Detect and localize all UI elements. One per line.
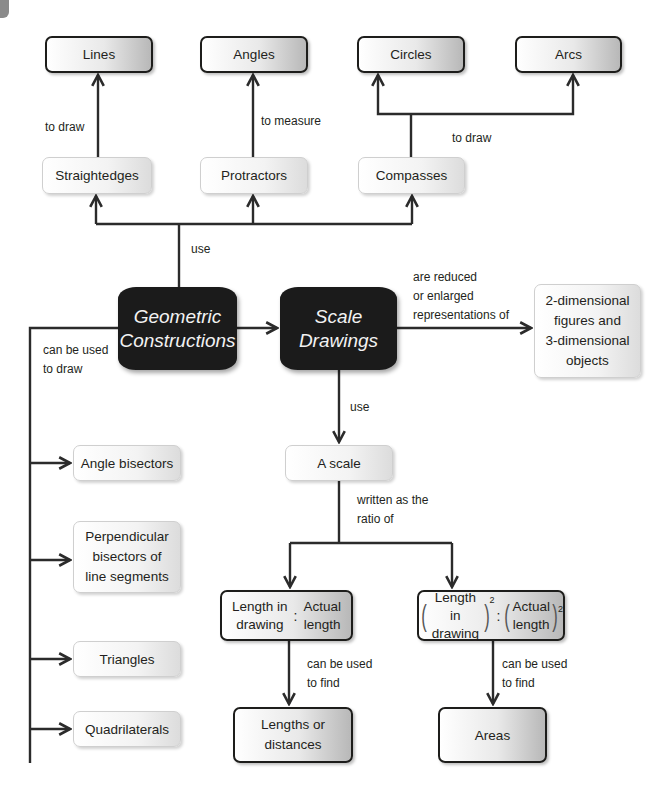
angle-bisectors-label: Angle bisectors: [81, 454, 173, 473]
ratio-squared-left-line2: drawing: [429, 625, 482, 643]
find-lengths-line1: can be used: [307, 655, 372, 674]
node-straightedges-label: Straightedges: [55, 166, 138, 185]
edge-label-use-scale: use: [350, 398, 369, 417]
geometric-line1: Geometric: [119, 305, 235, 329]
right-paren-close: ): [552, 601, 558, 631]
written-line2: ratio of: [357, 510, 428, 529]
node-lengths-distances: Lengths or distances: [233, 707, 353, 763]
node-protractors-label: Protractors: [221, 166, 287, 185]
ratio-squared-right-line2: length: [512, 616, 550, 634]
figures-line3: 3-dimensional: [545, 331, 629, 351]
find-areas-line2: to find: [502, 674, 567, 693]
node-angle-bisectors: Angle bisectors: [73, 445, 181, 481]
triangles-label: Triangles: [99, 650, 154, 669]
a-scale-label: A scale: [317, 454, 361, 473]
ratio-squared-left-group: ( Length in drawing ) 2: [419, 589, 495, 643]
node-circles: Circles: [357, 36, 465, 73]
left-paren-close: ): [484, 601, 490, 631]
edge-label-to-draw-circles: to draw: [452, 129, 491, 148]
edge-label-to-measure: to measure: [261, 112, 321, 131]
figures-line2: figures and: [545, 311, 629, 331]
ratio-squared-colon: :: [497, 607, 501, 625]
ratio-linear-left-line1: Length in: [232, 598, 288, 616]
ratio-squared-right-group: ( Actual length ) 2: [502, 598, 563, 634]
written-line1: written as the: [357, 491, 428, 510]
node-lines: Lines: [45, 36, 153, 73]
ratio-linear-left-line2: drawing: [232, 616, 288, 634]
can-draw-line1: can be used: [43, 341, 108, 360]
find-lengths-line2: to find: [307, 674, 372, 693]
ratio-linear-left: Length in drawing: [232, 598, 288, 634]
edge-label-find-lengths: can be used to find: [307, 655, 372, 693]
node-compasses-label: Compasses: [376, 166, 447, 185]
ratio-squared-left-line1: Length in: [429, 589, 482, 625]
node-quadrilaterals: Quadrilaterals: [73, 711, 181, 747]
can-draw-line2: to draw: [43, 360, 108, 379]
figures-line4: objects: [545, 351, 629, 371]
left-paren-open: (: [421, 601, 427, 631]
right-paren-open: (: [505, 601, 511, 631]
ratio-linear-right-line1: Actual: [303, 598, 341, 616]
scale-line2: Drawings: [299, 329, 378, 353]
edge-label-represent: are reduced or enlarged representations …: [413, 268, 509, 325]
node-geometric-constructions: Geometric Constructions: [118, 287, 237, 370]
represent-line3: representations of: [413, 306, 509, 325]
perp-line1: Perpendicular: [85, 527, 168, 547]
represent-line2: or enlarged: [413, 287, 509, 306]
ratio-linear-right-line2: length: [303, 616, 341, 634]
areas-label: Areas: [475, 726, 510, 745]
quadrilaterals-label: Quadrilaterals: [85, 720, 169, 739]
lengths-line2: distances: [261, 735, 325, 755]
find-areas-line1: can be used: [502, 655, 567, 674]
perp-line2: bisectors of: [85, 547, 168, 567]
represent-line1: are reduced: [413, 268, 509, 287]
lengths-line1: Lengths or: [261, 715, 325, 735]
perp-line3: line segments: [85, 567, 168, 587]
node-figures-objects: 2-dimensional figures and 3-dimensional …: [534, 284, 641, 378]
node-perpendicular-bisectors: Perpendicular bisectors of line segments: [73, 521, 181, 593]
node-a-scale: A scale: [285, 445, 393, 481]
right-exponent: 2: [558, 600, 563, 618]
node-compasses: Compasses: [358, 157, 465, 194]
figures-line1: 2-dimensional: [545, 291, 629, 311]
ratio-linear-right: Actual length: [303, 598, 341, 634]
scale-line1: Scale: [299, 305, 378, 329]
ratio-linear-colon: :: [294, 607, 298, 625]
node-ratio-squared: ( Length in drawing ) 2 : ( Actual lengt…: [417, 590, 565, 641]
node-straightedges: Straightedges: [42, 157, 152, 194]
node-ratio-linear: Length in drawing : Actual length: [220, 590, 353, 641]
left-exponent: 2: [490, 591, 495, 609]
edge-label-use-tools: use: [191, 240, 210, 259]
node-circles-label: Circles: [390, 45, 431, 64]
edge-label-can-draw: can be used to draw: [43, 341, 108, 379]
node-triangles: Triangles: [73, 641, 181, 677]
edge-label-find-areas: can be used to find: [502, 655, 567, 693]
node-protractors: Protractors: [200, 157, 308, 194]
node-angles: Angles: [200, 36, 308, 73]
node-lines-label: Lines: [83, 45, 115, 64]
edge-label-written-as: written as the ratio of: [357, 491, 428, 529]
node-areas: Areas: [438, 707, 547, 763]
node-angles-label: Angles: [233, 45, 274, 64]
node-arcs: Arcs: [515, 36, 622, 73]
edge-label-to-draw-lines: to draw: [45, 118, 84, 137]
ratio-squared-right-line1: Actual: [512, 598, 550, 616]
node-scale-drawings: Scale Drawings: [280, 287, 397, 370]
geometric-line2: Constructions: [119, 329, 235, 353]
node-arcs-label: Arcs: [555, 45, 582, 64]
